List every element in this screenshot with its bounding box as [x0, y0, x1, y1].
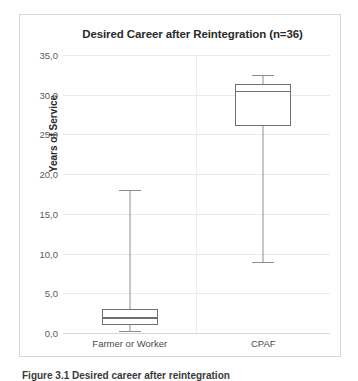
- lower-whisker-cap: [252, 262, 274, 263]
- y-axis-tick-label: 10,0: [24, 248, 58, 259]
- plot-area: [63, 55, 330, 333]
- figure-caption: Figure 3.1 Desired career after reintegr…: [22, 370, 352, 381]
- y-axis-tick-label: 15,0: [24, 208, 58, 219]
- x-axis-tick-label: Farmer or Worker: [92, 338, 167, 349]
- y-axis-tick-label: 35,0: [24, 50, 58, 61]
- figure-root: Desired Career after Reintegration (n=36…: [0, 0, 358, 381]
- upper-whisker-line: [129, 190, 130, 309]
- upper-whisker-cap: [119, 190, 141, 191]
- y-axis-tick-label: 5,0: [24, 288, 58, 299]
- upper-whisker-cap: [252, 75, 274, 76]
- gridline: [63, 333, 330, 334]
- box-plot-2: [235, 55, 291, 333]
- lower-whisker-cap: [119, 331, 141, 332]
- y-axis-tick-label: 20,0: [24, 169, 58, 180]
- chart-title: Desired Career after Reintegration (n=36…: [55, 28, 330, 40]
- x-axis-tick-label: CPAF: [251, 338, 276, 349]
- y-axis-tick-label: 30,0: [24, 89, 58, 100]
- x-axis-tick-labels: Farmer or WorkerCPAF: [63, 338, 330, 356]
- upper-whisker-line: [263, 75, 264, 85]
- median-line: [235, 91, 291, 92]
- y-axis-tick-label: 25,0: [24, 129, 58, 140]
- median-line: [102, 317, 158, 318]
- box-plot-1: [102, 55, 158, 333]
- y-axis-tick-labels: 35,030,025,020,015,010,05,00,0: [22, 55, 58, 333]
- y-axis-tick-label: 0,0: [24, 328, 58, 339]
- lower-whisker-line: [263, 126, 264, 261]
- category-divider: [196, 55, 197, 333]
